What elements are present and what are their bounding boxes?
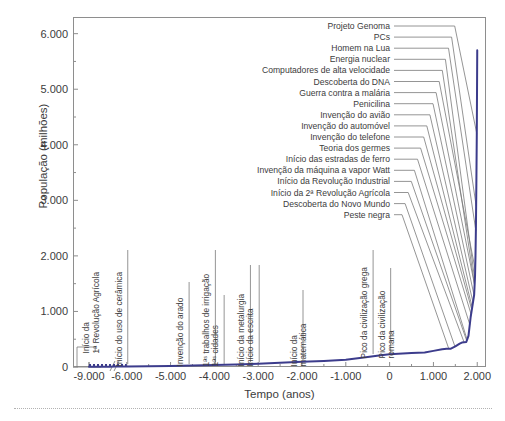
annotation-label: Projeto Genoma bbox=[0, 21, 390, 31]
inline-annotation-label: Início do uso de cerâmica bbox=[114, 272, 123, 367]
annotation-label: Início das estradas de ferro bbox=[0, 154, 390, 164]
inline-annotation-leader-lines bbox=[77, 250, 391, 367]
annotation-label: Homem na Lua bbox=[0, 43, 390, 53]
annotation-label: Descoberta do Novo Mundo bbox=[0, 199, 390, 209]
inline-annotation-label: 1ª Revolução Agrícola bbox=[91, 272, 100, 353]
annotation-label: Invenção da máquina a vapor Watt bbox=[0, 165, 390, 175]
annotation-label: Teoria dos germes bbox=[0, 143, 390, 153]
bottom-divider bbox=[14, 408, 492, 410]
inline-annotation-label: 1ªˢ cidades bbox=[211, 325, 220, 366]
annotation-label: Descoberta do DNA bbox=[0, 77, 390, 87]
annotation-label: Energia nuclear bbox=[0, 54, 390, 64]
annotation-label: Invenção do telefone bbox=[0, 132, 390, 142]
inline-annotation-label: matemática bbox=[299, 324, 308, 367]
inline-annotation-label: Início da escrita bbox=[246, 308, 255, 366]
annotation-label: Peste negra bbox=[0, 210, 390, 220]
annotation-label: Início da Revolução Industrial bbox=[0, 176, 390, 186]
chart-root: População (milhões) Tempo (anos) 01.0002… bbox=[0, 0, 505, 421]
annotation-label: Guerra contra a malária bbox=[0, 88, 390, 98]
annotation-label: Computadores de alta velocidade bbox=[0, 65, 390, 75]
inline-annotation-label: Pico da civilização grega bbox=[360, 267, 369, 358]
annotation-leader-lines bbox=[394, 26, 477, 349]
annotation-label: Início da 2ª Revolução Agrícola bbox=[0, 188, 390, 198]
annotation-label: Penicilina bbox=[0, 99, 390, 109]
inline-annotation-label: Invenção do arado bbox=[176, 298, 185, 367]
annotation-label: Invenção do automóvel bbox=[0, 121, 390, 131]
inline-annotation-label: romana bbox=[387, 330, 396, 358]
annotation-label: PCs bbox=[0, 32, 390, 42]
annotation-label: Invenção do avião bbox=[0, 110, 390, 120]
